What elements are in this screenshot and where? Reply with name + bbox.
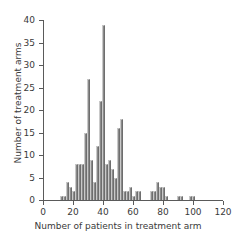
x-axis-tick-label: 120 [211, 207, 235, 218]
y-axis-tick [39, 200, 43, 201]
y-axis-tick [39, 65, 43, 66]
histogram-bar [120, 119, 123, 200]
y-axis-tick [39, 110, 43, 111]
plot-inner [43, 20, 223, 200]
histogram-bars [43, 20, 223, 200]
y-axis-tick-label: 0 [17, 196, 35, 205]
x-axis-tick [193, 201, 194, 205]
y-axis-tick [39, 43, 43, 44]
x-axis-tick [103, 201, 104, 205]
x-axis-tick [73, 201, 74, 205]
y-axis-title: Number of treatment arms [13, 23, 23, 183]
histogram-bar [138, 191, 141, 200]
y-axis-tick [39, 178, 43, 179]
plot-area [43, 20, 223, 200]
y-axis-tick [39, 88, 43, 89]
x-axis-tick-label: 0 [31, 207, 55, 218]
x-axis-tick-label: 80 [151, 207, 175, 218]
x-axis-tick [163, 201, 164, 205]
x-axis-tick-label: 20 [61, 207, 85, 218]
y-axis-line [43, 20, 44, 201]
y-axis-tick [39, 133, 43, 134]
x-axis-tick-label: 60 [121, 207, 145, 218]
x-axis-tick [223, 201, 224, 205]
x-axis-tick [133, 201, 134, 205]
x-axis-title: Number of patients in treatment arm [0, 221, 236, 231]
y-axis-tick [39, 155, 43, 156]
x-axis-tick-label: 100 [181, 207, 205, 218]
x-axis-tick-label: 40 [91, 207, 115, 218]
y-axis-tick [39, 20, 43, 21]
x-axis-tick [43, 201, 44, 205]
histogram-figure: 0204060801001200510152025303540 Number o… [0, 0, 236, 240]
